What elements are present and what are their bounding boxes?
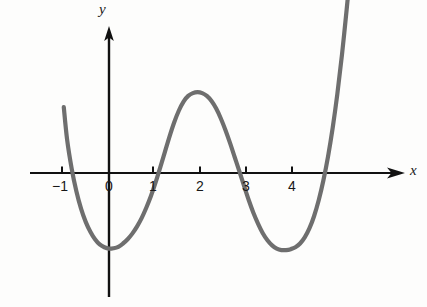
x-tick-label-3: 3: [233, 179, 259, 193]
x-tick-label-1: 1: [140, 179, 166, 193]
graph-figure: y x −101234: [0, 0, 427, 307]
y-axis-label: y: [99, 2, 106, 17]
x-tick-label--1: −1: [47, 179, 73, 193]
plot-svg: [0, 0, 427, 307]
x-tick-label-4: 4: [279, 179, 305, 193]
x-tick-label-0: 0: [96, 179, 122, 193]
x-axis-label: x: [410, 163, 417, 178]
x-tick-label-2: 2: [187, 179, 213, 193]
